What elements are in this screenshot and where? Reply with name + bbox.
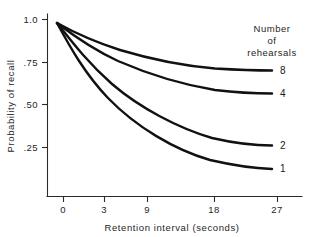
line-chart: 1.0 .75 .50 .25 0 3 9 18 27 Retention in… xyxy=(0,0,316,237)
series-label-4: 4 xyxy=(280,88,286,99)
x-axis-title: Retention interval (seconds) xyxy=(104,222,239,233)
y-axis-title: Probability of recall xyxy=(5,60,16,153)
legend-title-line-1: Number xyxy=(254,23,291,34)
legend-title: Number of rehearsals xyxy=(247,23,296,58)
legend-title-line-3: rehearsals xyxy=(247,47,296,58)
legend-title-line-2: of xyxy=(268,35,277,46)
series-label-8: 8 xyxy=(280,65,286,76)
chart-figure: 1.0 .75 .50 .25 0 3 9 18 27 Retention in… xyxy=(0,0,316,237)
y-tick-label-2: .75 xyxy=(24,57,38,68)
x-tick-label-2: 3 xyxy=(101,204,107,215)
y-tick-marks xyxy=(42,20,47,148)
x-tick-labels: 0 3 9 18 27 xyxy=(60,204,283,215)
x-tick-label-1: 0 xyxy=(60,204,66,215)
y-tick-label-4: .25 xyxy=(24,142,38,153)
y-tick-label-1: 1.0 xyxy=(24,14,38,25)
curve-series-2 xyxy=(57,23,272,146)
y-tick-labels: 1.0 .75 .50 .25 xyxy=(24,14,38,153)
x-tick-label-4: 18 xyxy=(208,204,219,215)
series-label-2: 2 xyxy=(280,140,286,151)
curve-series-4 xyxy=(57,23,272,94)
x-tick-label-5: 27 xyxy=(271,204,282,215)
y-tick-label-3: .50 xyxy=(24,99,38,110)
x-tick-label-3: 9 xyxy=(144,204,150,215)
series-labels: 8 4 2 1 xyxy=(280,65,286,174)
series-label-1: 1 xyxy=(280,163,286,174)
data-curves xyxy=(57,23,272,169)
